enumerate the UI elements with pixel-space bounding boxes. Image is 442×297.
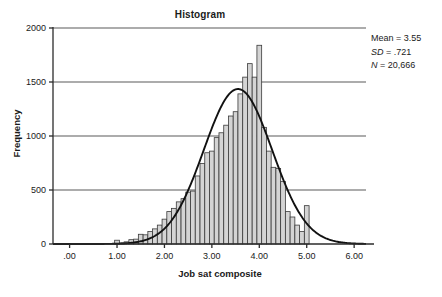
- plot-canvas: [0, 0, 442, 297]
- histogram-bar: [214, 138, 219, 244]
- histogram-bar: [290, 217, 295, 244]
- histogram-bar: [238, 94, 243, 244]
- histogram-bar: [271, 167, 276, 244]
- histogram-bar: [233, 112, 238, 244]
- histogram-bar: [224, 125, 229, 244]
- histogram-bar: [205, 153, 210, 244]
- histogram-bar: [243, 77, 248, 244]
- histogram-bar: [186, 192, 191, 244]
- histogram-bar: [300, 232, 305, 244]
- bar-group: [115, 45, 309, 244]
- histogram-bar: [162, 219, 167, 244]
- histogram-figure: Histogram Frequency Job sat composite Me…: [0, 0, 442, 297]
- histogram-bar: [167, 212, 172, 244]
- histogram-bar: [210, 151, 215, 244]
- histogram-bar: [257, 45, 262, 244]
- histogram-bar: [276, 168, 281, 244]
- histogram-bar: [281, 181, 286, 244]
- histogram-bar: [195, 176, 200, 244]
- histogram-bar: [247, 64, 252, 244]
- histogram-bar: [200, 164, 205, 244]
- histogram-bar: [219, 133, 224, 244]
- histogram-bar: [228, 116, 233, 244]
- histogram-bar: [266, 151, 271, 244]
- histogram-bar: [262, 127, 267, 244]
- histogram-bar: [285, 212, 290, 244]
- histogram-bar: [191, 191, 196, 244]
- histogram-bar: [295, 225, 300, 244]
